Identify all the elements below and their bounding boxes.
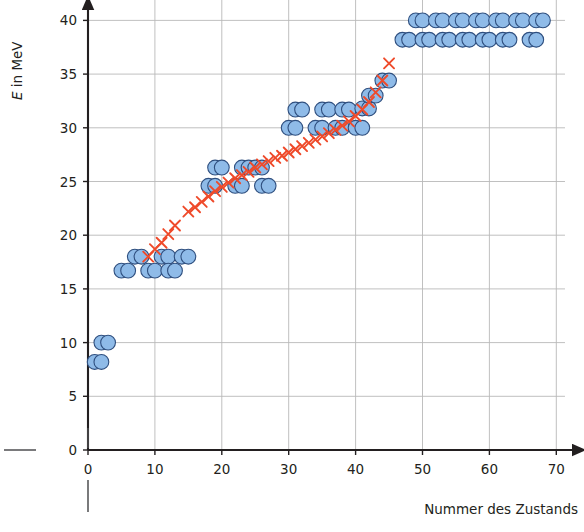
- x-tick-label: 50: [414, 461, 431, 477]
- data-point-circle: [382, 73, 397, 88]
- data-point-circle: [435, 13, 450, 28]
- data-point-circle: [181, 249, 196, 264]
- data-point-cross: [170, 221, 180, 231]
- data-point-circle: [261, 178, 276, 193]
- y-axis-title: E in MeV: [9, 41, 25, 100]
- data-point-circle: [134, 249, 149, 264]
- data-point-circle: [442, 32, 457, 47]
- x-tick-label: 60: [481, 461, 498, 477]
- data-point-circle: [148, 263, 163, 278]
- series-states: [87, 13, 550, 369]
- y-tick-label: 20: [60, 227, 77, 243]
- data-point-circle: [422, 32, 437, 47]
- data-point-circle: [295, 102, 310, 117]
- x-tick-label: 30: [280, 461, 297, 477]
- data-point-circle: [288, 120, 303, 135]
- data-point-circle: [161, 249, 176, 264]
- scatter-plot: 0510152025303540010203040506070 E in MeV…: [0, 0, 584, 532]
- y-tick-label: 15: [60, 281, 77, 297]
- gridlines: [88, 0, 565, 450]
- y-tick-label: 25: [60, 174, 77, 190]
- data-point-cross: [157, 238, 167, 248]
- y-tick-label: 5: [68, 388, 77, 404]
- data-point-circle: [462, 32, 477, 47]
- y-tick-label: 0: [68, 442, 77, 458]
- data-point-circle: [321, 102, 336, 117]
- x-tick-label: 70: [548, 461, 565, 477]
- data-point-cross: [163, 229, 173, 239]
- x-tick-label: 40: [347, 461, 364, 477]
- data-point-circle: [94, 355, 109, 370]
- data-point-circle: [415, 13, 430, 28]
- y-tick-label: 40: [60, 12, 77, 28]
- data-point-circle: [515, 13, 530, 28]
- data-point-circle: [121, 263, 136, 278]
- data-point-circle: [482, 32, 497, 47]
- data-point-circle: [495, 13, 510, 28]
- data-point-circle: [529, 32, 544, 47]
- data-point-cross: [384, 58, 394, 68]
- data-point-circle: [536, 13, 551, 28]
- x-tick-label: 0: [84, 461, 93, 477]
- x-tick-label: 20: [213, 461, 230, 477]
- series-trendline: [143, 58, 394, 261]
- data-point-circle: [455, 13, 470, 28]
- y-tick-label: 10: [60, 335, 77, 351]
- y-tick-label: 35: [60, 66, 77, 82]
- data-point-circle: [214, 160, 229, 175]
- data-series: [87, 13, 550, 369]
- data-point-circle: [475, 13, 490, 28]
- x-axis-title: Nummer des Zustands: [424, 501, 578, 517]
- data-point-circle: [168, 263, 183, 278]
- data-point-circle: [402, 32, 417, 47]
- chart-root: 0510152025303540010203040506070 E in MeV…: [0, 0, 584, 532]
- y-tick-label: 30: [60, 120, 77, 136]
- data-point-circle: [355, 120, 370, 135]
- data-point-circle: [502, 32, 517, 47]
- x-tick-label: 10: [146, 461, 163, 477]
- data-point-circle: [101, 335, 116, 350]
